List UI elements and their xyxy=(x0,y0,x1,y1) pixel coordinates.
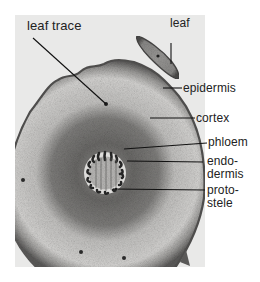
label-protostele-line2: stele xyxy=(207,197,239,210)
protostele xyxy=(81,149,129,197)
label-endodermis-line2: dermis xyxy=(207,168,244,181)
leaf-trace-dot xyxy=(122,256,126,260)
label-phloem: phloem xyxy=(208,136,248,148)
stem-cross-section-figure: leaf trace leaf epidermis cortex phloem … xyxy=(0,0,260,282)
label-epidermis: epidermis xyxy=(183,82,236,94)
label-cortex: cortex xyxy=(196,112,229,124)
label-endodermis: endo- dermis xyxy=(207,155,244,181)
label-protostele: proto- stele xyxy=(207,184,239,210)
label-leaf-trace: leaf trace xyxy=(27,20,81,32)
label-leaf: leaf xyxy=(170,17,190,29)
leaf-trace-dot xyxy=(79,250,83,254)
leaf-trace-dot xyxy=(21,178,25,182)
